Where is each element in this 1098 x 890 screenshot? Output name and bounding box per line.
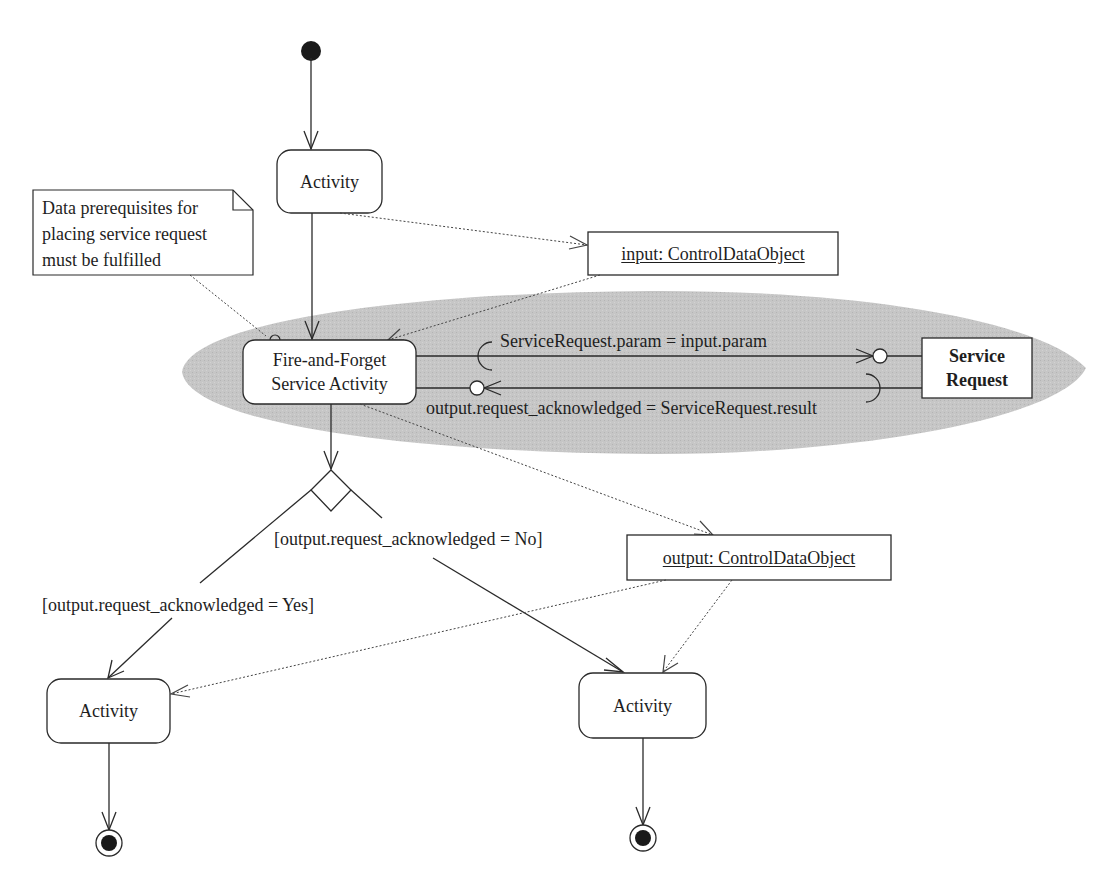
result-mapping-label: output.request_acknowledged = ServiceReq… bbox=[426, 397, 817, 419]
lollipop-provided-result bbox=[470, 381, 484, 395]
object-flow-activity-to-input bbox=[340, 213, 587, 249]
decision-node[interactable] bbox=[311, 470, 351, 511]
fire-and-forget-label-line2: Service Activity bbox=[271, 372, 387, 396]
activity-top-label: Activity bbox=[277, 150, 382, 213]
control-flow-no-to-right-activity bbox=[433, 558, 623, 672]
service-request-label-line1: Service bbox=[949, 344, 1005, 368]
output-object-label: output: ControlDataObject bbox=[627, 535, 891, 580]
service-request-label-line2: Request bbox=[946, 368, 1008, 392]
activity-diagram bbox=[0, 0, 1098, 890]
control-flow-right-to-final bbox=[636, 738, 650, 825]
activity-right-label: Activity bbox=[579, 673, 706, 738]
input-object-label: input: ControlDataObject bbox=[588, 232, 838, 275]
object-flow-output-to-right-activity bbox=[663, 580, 732, 672]
param-mapping-label: ServiceRequest.param = input.param bbox=[500, 330, 767, 352]
final-node-right bbox=[630, 825, 656, 851]
service-request-label: Service Request bbox=[922, 338, 1032, 398]
control-flow-initial-to-activity bbox=[304, 58, 318, 149]
fire-and-forget-label: Fire-and-Forget Service Activity bbox=[243, 340, 416, 404]
control-flow-yes-to-left-activity bbox=[108, 618, 172, 678]
note-anchor-line bbox=[190, 275, 266, 336]
guard-no-label: [output.request_acknowledged = No] bbox=[274, 528, 543, 550]
lollipop-provided-param bbox=[873, 349, 887, 363]
guard-yes-label: [output.request_acknowledged = Yes] bbox=[42, 594, 314, 616]
note-text: Data prerequisites for placing service r… bbox=[42, 195, 242, 273]
activity-left-label: Activity bbox=[47, 679, 170, 743]
control-flow-left-to-final bbox=[102, 743, 116, 830]
final-node-left bbox=[96, 830, 122, 856]
fire-and-forget-label-line1: Fire-and-Forget bbox=[273, 348, 387, 372]
